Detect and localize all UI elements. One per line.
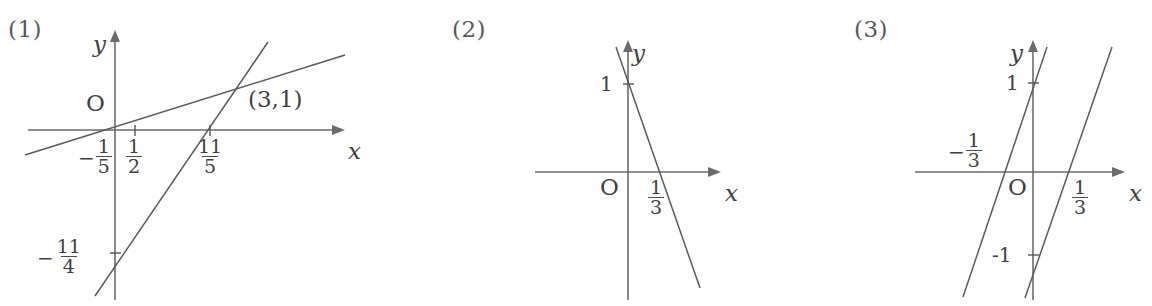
fraction-denominator: 5 [202, 156, 218, 176]
panel-1-origin-label: O [86, 92, 105, 115]
panel-1-ytick-label-neg-eleven-fourths: −114 [37, 238, 83, 278]
fraction-denominator: 3 [966, 150, 982, 170]
panel-3-xtick-label-one-third: 13 [1072, 179, 1088, 219]
panel-3-y-axis-arrow [1028, 40, 1038, 52]
panel-1-point-label: (3,1) [248, 88, 303, 111]
minus-sign: − [948, 142, 965, 162]
panel-2-x-axis-arrow [708, 167, 721, 177]
panel-3-y-axis-label: y [1010, 42, 1023, 65]
panel-1-xtick-label-neg-one-fifth: −15 [78, 138, 112, 178]
fraction-denominator: 5 [96, 156, 112, 176]
fraction-denominator: 2 [126, 156, 142, 176]
panel-1-steep-line [95, 42, 268, 296]
panel-3-ytick-label-one: 1 [1006, 73, 1019, 93]
panel-2-y-axis-label: y [632, 42, 645, 65]
panel-3-x-axis-label: x [1129, 182, 1142, 205]
panel-1-y-axis-label: y [93, 33, 106, 56]
fraction-numerator: 1 [1072, 178, 1088, 197]
fraction-numerator: 11 [55, 237, 83, 256]
panel-1-y-axis-arrow [110, 30, 120, 42]
panel-3-ytick-label-neg-one: -1 [992, 245, 1011, 265]
panel-3-xtick-label-neg-one-third: −13 [948, 132, 982, 172]
panel-3: (3) x y O 1 -1 −13 13 [840, 0, 1152, 306]
fraction: 115 [196, 137, 224, 177]
fraction: 12 [126, 137, 142, 177]
panel-3-origin-label: O [1008, 176, 1027, 199]
panel-2-x-axis-label: x [725, 182, 738, 205]
fraction: 13 [1072, 178, 1088, 218]
fraction-numerator: 1 [126, 137, 142, 156]
panel-2-origin-label: O [600, 176, 619, 199]
minus-sign: − [37, 248, 54, 268]
fraction-numerator: 1 [648, 178, 664, 197]
fraction-numerator: 1 [966, 131, 982, 150]
fraction-numerator: 11 [196, 137, 224, 156]
fraction: 13 [648, 178, 664, 218]
panel-3-x-axis-arrow [1112, 167, 1125, 177]
panel-2: (2) x y O 1 13 [420, 0, 840, 306]
panel-2-xtick-label-one-third: 13 [648, 179, 664, 219]
panel-1-x-axis-label: x [348, 140, 361, 163]
figure-root: (1) x y O −15 12 [0, 0, 1152, 306]
fraction: 15 [96, 137, 112, 177]
fraction-denominator: 3 [1072, 197, 1088, 217]
fraction: 114 [55, 237, 83, 277]
panel-1: (1) x y O −15 12 [0, 0, 420, 306]
panel-2-ytick-label-one: 1 [600, 74, 613, 94]
fraction-numerator: 1 [96, 137, 112, 156]
minus-sign: − [78, 148, 95, 168]
fraction-denominator: 3 [648, 197, 664, 217]
panel-2-plot [420, 0, 840, 306]
fraction: 13 [966, 131, 982, 171]
fraction-denominator: 4 [61, 256, 77, 276]
panel-1-x-axis-arrow [332, 125, 345, 135]
panel-1-xtick-label-one-half: 12 [126, 138, 142, 178]
panel-1-xtick-label-eleven-fifths: 115 [196, 138, 224, 178]
